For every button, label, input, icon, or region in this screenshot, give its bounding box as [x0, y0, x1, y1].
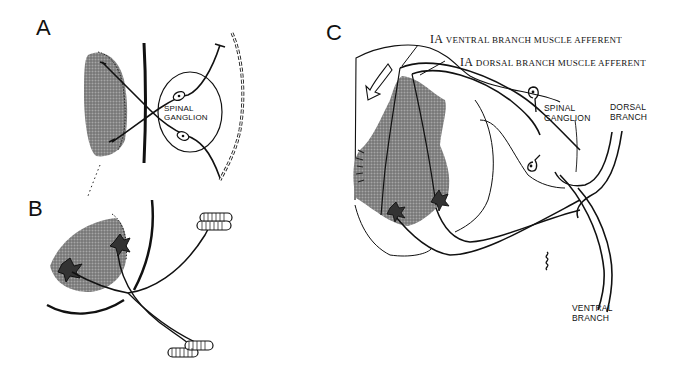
panel-a-spinal-ganglion-label: SPINAL GANGLION	[164, 104, 208, 122]
ia-dorsal-text: DORSAL BRANCH MUSCLE AFFERENT	[476, 58, 646, 68]
label-line: SPINAL	[544, 103, 590, 113]
dorsal-branch-label: DORSAL BRANCH	[610, 102, 647, 122]
ia-prefix: IA	[430, 32, 443, 46]
ventral-branch-label: VENTRAL BRANCH	[572, 303, 613, 323]
dorsal-root-line	[144, 43, 146, 163]
ia-prefix: IA	[460, 55, 473, 69]
panel-c-spinal-ganglion-label: SPINAL GANGLION	[544, 103, 590, 123]
open-arrow	[366, 64, 392, 100]
label-line: SPINAL	[164, 104, 208, 113]
label-line: GANGLION	[544, 113, 590, 123]
gray-matter-region	[84, 52, 127, 156]
panel-c-diagram	[353, 45, 622, 312]
panel-label-b: B	[28, 198, 43, 220]
ia-dorsal-afferent-label: IA DORSAL BRANCH MUSCLE AFFERENT	[460, 55, 646, 70]
muscle-fiber-b-upper	[197, 213, 232, 230]
label-line: VENTRAL	[572, 303, 613, 313]
panel-label-c: C	[326, 22, 342, 44]
ia-ventral-text: VENTRAL BRANCH MUSCLE AFFERENT	[446, 35, 622, 45]
panel-label-a: A	[36, 17, 51, 39]
label-line: BRANCH	[572, 313, 613, 323]
label-line: DORSAL	[610, 102, 647, 112]
ia-ventral-afferent-label: IA VENTRAL BRANCH MUSCLE AFFERENT	[430, 32, 622, 47]
panel-b-diagram	[47, 200, 232, 357]
label-line: BRANCH	[610, 112, 647, 122]
label-line: GANGLION	[164, 113, 208, 122]
squiggle-mark	[546, 252, 548, 270]
muscle-fiber-b-lower	[168, 341, 213, 357]
